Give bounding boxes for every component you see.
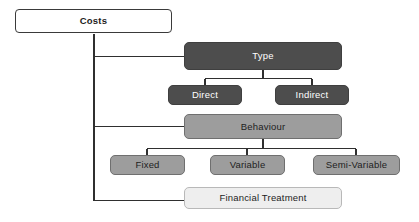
costs-classification-diagram: Costs Type Direct Indirect Behaviour Fix… [0, 0, 419, 222]
node-indirect[interactable]: Indirect [275, 85, 349, 105]
node-costs-label: Costs [80, 16, 107, 26]
node-variable[interactable]: Variable [210, 155, 285, 175]
node-direct[interactable]: Direct [168, 85, 242, 105]
node-semi-variable[interactable]: Semi-Variable [313, 155, 400, 175]
node-financial-treatment-label: Financial Treatment [219, 193, 306, 203]
node-semi-variable-label: Semi-Variable [326, 160, 388, 170]
node-direct-label: Direct [192, 90, 218, 100]
node-type-label: Type [252, 51, 273, 61]
node-variable-label: Variable [230, 160, 266, 170]
node-financial-treatment[interactable]: Financial Treatment [184, 187, 342, 209]
node-indirect-label: Indirect [296, 90, 329, 100]
node-behaviour[interactable]: Behaviour [184, 114, 342, 139]
node-type[interactable]: Type [184, 42, 342, 70]
node-costs[interactable]: Costs [15, 9, 172, 33]
node-behaviour-label: Behaviour [241, 122, 286, 132]
node-fixed-label: Fixed [135, 160, 159, 170]
node-fixed[interactable]: Fixed [110, 155, 185, 175]
